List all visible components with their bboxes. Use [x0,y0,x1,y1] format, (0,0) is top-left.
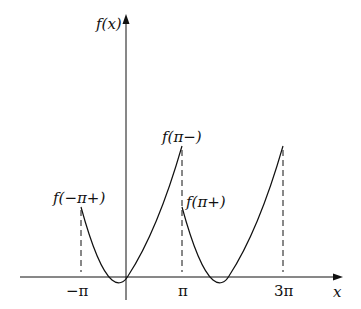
annotation-f-pi-minus: f(π−) [161,128,202,146]
curve-segment-2 [182,146,283,283]
y-axis-arrow-icon [123,14,130,24]
x-axis-arrow-icon [333,274,343,281]
y-axis-label: f(x) [95,15,122,33]
annotation-f-neg-pi-plus: f(−π+) [52,189,105,207]
tick-pi: π [178,282,188,300]
annotation-f-pi-plus: f(π+) [185,193,226,211]
x-axis-label: x [333,283,342,301]
tick-neg-pi: −π [66,282,89,300]
function-plot: f(x) x −π π 3π f(−π+) f(π−) f(π+) [0,0,361,309]
tick-3pi: 3π [274,282,294,300]
curve-segment-1 [81,146,182,283]
